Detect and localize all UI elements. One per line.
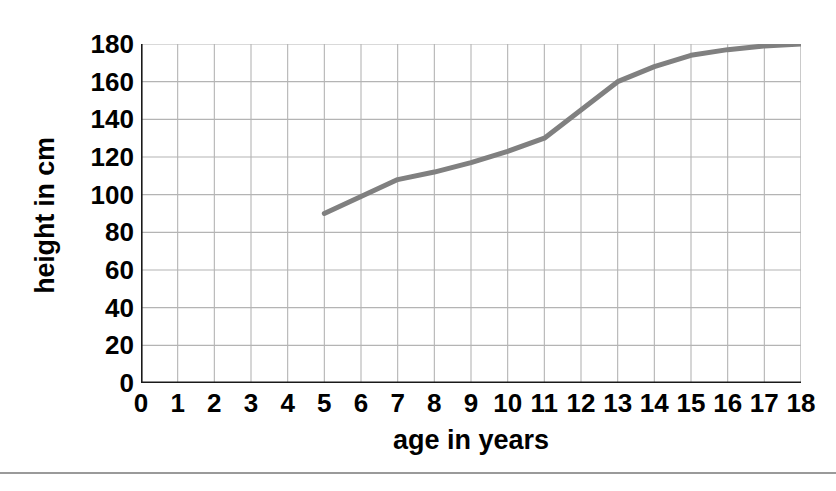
x-tick-label: 2 [207, 390, 221, 416]
x-tick-label: 1 [170, 390, 184, 416]
x-tick-label: 13 [603, 390, 632, 416]
y-tick-label: 80 [72, 219, 134, 245]
y-axis-tick-labels: 020406080100120140160180 [66, 0, 134, 491]
y-tick-label: 140 [72, 106, 134, 132]
x-tick-label: 15 [677, 390, 706, 416]
plot-area [141, 44, 801, 383]
y-tick-label: 100 [72, 182, 134, 208]
chart-svg [141, 44, 801, 383]
bottom-separator-rule [0, 472, 836, 474]
x-tick-label: 0 [134, 390, 148, 416]
x-tick-label: 16 [713, 390, 742, 416]
x-tick-label: 14 [640, 390, 669, 416]
y-tick-label: 120 [72, 144, 134, 170]
y-axis-title-text: height in cm [30, 137, 61, 294]
y-tick-label: 60 [72, 257, 134, 283]
x-tick-label: 10 [493, 390, 522, 416]
x-tick-label: 7 [390, 390, 404, 416]
x-axis-title: age in years [141, 425, 801, 456]
data-line-height [324, 44, 801, 214]
y-tick-label: 160 [72, 69, 134, 95]
x-tick-label: 11 [531, 390, 559, 416]
x-tick-label: 17 [750, 390, 779, 416]
x-tick-label: 4 [280, 390, 294, 416]
grid-vertical-lines [178, 44, 801, 383]
x-axis-tick-labels: 0123456789101112131415161718 [141, 390, 801, 424]
x-tick-label: 6 [354, 390, 368, 416]
y-tick-label: 20 [72, 332, 134, 358]
x-tick-label: 5 [317, 390, 331, 416]
y-tick-label: 40 [72, 295, 134, 321]
y-tick-label: 0 [72, 370, 134, 396]
chart-page: height in cm 020406080100120140160180 01… [0, 0, 836, 491]
x-tick-label: 9 [464, 390, 478, 416]
x-tick-label: 18 [787, 390, 816, 416]
x-tick-label: 12 [567, 390, 596, 416]
y-tick-label: 180 [72, 31, 134, 57]
x-tick-label: 8 [427, 390, 441, 416]
x-tick-label: 3 [244, 390, 258, 416]
